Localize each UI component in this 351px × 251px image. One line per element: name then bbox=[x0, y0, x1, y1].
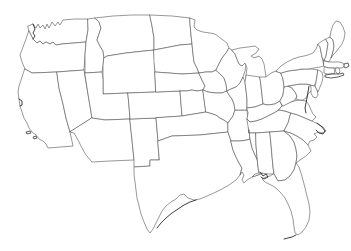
island-channel-islands-2 bbox=[33, 136, 37, 139]
state-KS[interactable]: Kansas bbox=[180, 90, 206, 116]
state-WY[interactable]: Wyoming bbox=[103, 50, 156, 94]
state-layer: Washington Oregon California Nevada Idah… bbox=[18, 15, 345, 235]
state-CT[interactable]: Connecticut bbox=[324, 67, 335, 74]
state-WA[interactable]: Washington bbox=[28, 19, 88, 45]
us-blank-map-figure: United States Contiguous 48 states, blan… bbox=[0, 0, 351, 251]
island-cape-cod bbox=[344, 63, 349, 68]
us-map-svg[interactable]: Washington Oregon California Nevada Idah… bbox=[0, 0, 351, 251]
state-CO[interactable]: Colorado bbox=[128, 91, 182, 119]
state-NY[interactable]: New York bbox=[276, 44, 324, 73]
state-NM[interactable]: New Mexico bbox=[130, 118, 159, 167]
coast-florida-keys bbox=[284, 235, 296, 239]
island-channel-islands-1 bbox=[26, 131, 31, 134]
state-NE[interactable]: Nebraska bbox=[155, 72, 205, 92]
state-RI[interactable]: Rhode Island bbox=[336, 68, 340, 74]
state-MA[interactable]: Massachusetts bbox=[324, 61, 345, 68]
